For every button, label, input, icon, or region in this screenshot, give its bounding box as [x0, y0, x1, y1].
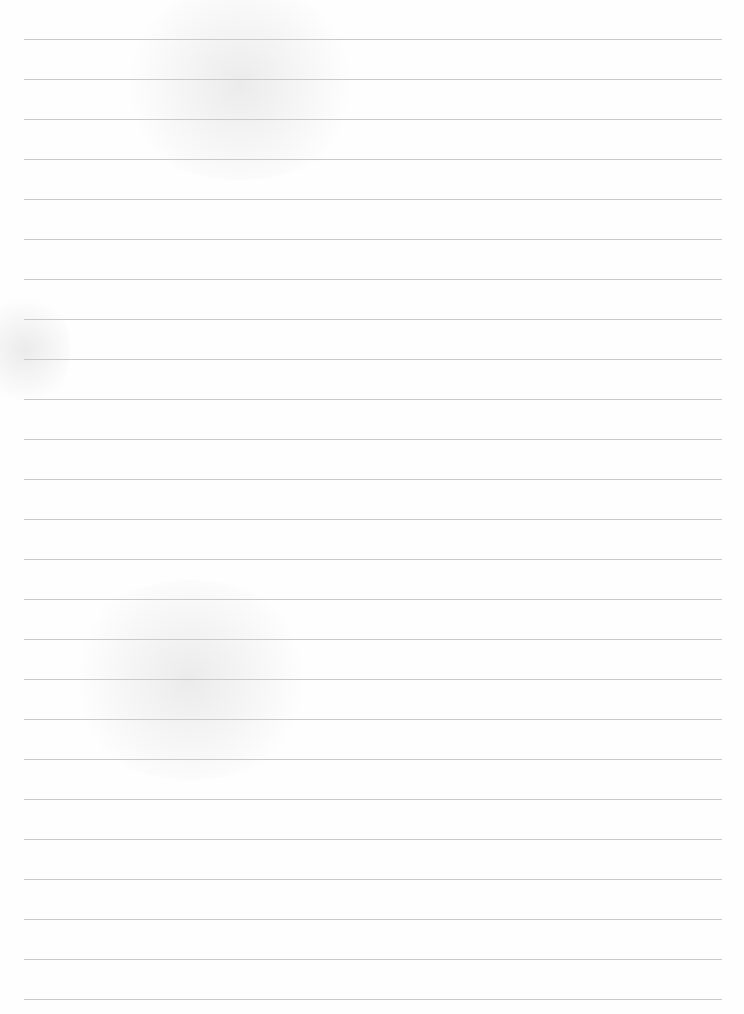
- ruled-line: [24, 319, 722, 320]
- ruled-line: [24, 919, 722, 920]
- ruled-line: [24, 279, 722, 280]
- ruled-line: [24, 519, 722, 520]
- ruled-line: [24, 399, 722, 400]
- ruled-line: [24, 999, 722, 1000]
- ruled-line: [24, 119, 722, 120]
- ruled-line: [24, 639, 722, 640]
- ruled-line: [24, 799, 722, 800]
- ruled-line: [24, 239, 722, 240]
- scan-noise: [110, 0, 370, 180]
- ruled-line: [24, 719, 722, 720]
- ruled-line: [24, 159, 722, 160]
- ruled-line: [24, 359, 722, 360]
- ruled-line: [24, 39, 722, 40]
- ruled-line: [24, 679, 722, 680]
- ruled-line: [24, 959, 722, 960]
- ruled-line: [24, 759, 722, 760]
- ruled-line: [24, 839, 722, 840]
- lined-paper-sheet: [0, 0, 744, 1014]
- ruled-line: [24, 559, 722, 560]
- ruled-line: [24, 79, 722, 80]
- ruled-line: [24, 599, 722, 600]
- ruled-line: [24, 879, 722, 880]
- ruled-line: [24, 199, 722, 200]
- scan-noise: [60, 580, 320, 780]
- ruled-line: [24, 439, 722, 440]
- ruled-line: [24, 479, 722, 480]
- scan-noise: [0, 290, 70, 410]
